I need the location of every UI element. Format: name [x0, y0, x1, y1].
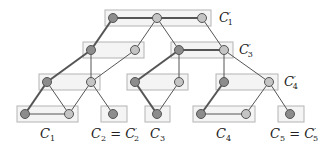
- node: [198, 14, 207, 23]
- node: [87, 46, 96, 55]
- label-c4: C4: [216, 126, 231, 143]
- label-c1: C1: [40, 126, 55, 143]
- node: [131, 46, 140, 55]
- label-c1-prime: C′1: [219, 10, 233, 27]
- label-c3-prime: C′3: [239, 42, 253, 59]
- node: [65, 110, 74, 119]
- node: [242, 110, 251, 119]
- node: [131, 78, 140, 87]
- label-c4-prime: C′4: [284, 74, 298, 91]
- label-c2-eq-c2-prime: C2 = C′2: [91, 126, 139, 143]
- node: [175, 78, 184, 87]
- node: [153, 14, 162, 23]
- node: [109, 110, 118, 119]
- node: [197, 110, 206, 119]
- node: [220, 78, 229, 87]
- label-c3: C3: [150, 126, 165, 143]
- cluster-hierarchy-diagram: C′1 C′3 C′4 C1 C2 = C′2 C3 C4 C5 = C′5: [0, 0, 329, 150]
- node: [286, 110, 295, 119]
- node: [153, 110, 162, 119]
- label-c5-eq-c5-prime: C5 = C′5: [270, 126, 318, 143]
- node: [109, 14, 118, 23]
- node: [175, 46, 184, 55]
- node: [43, 78, 52, 87]
- cluster-boxes: [17, 10, 304, 122]
- node: [265, 78, 274, 87]
- node: [220, 46, 229, 55]
- node: [87, 78, 96, 87]
- edges: [25, 18, 290, 114]
- node: [21, 110, 30, 119]
